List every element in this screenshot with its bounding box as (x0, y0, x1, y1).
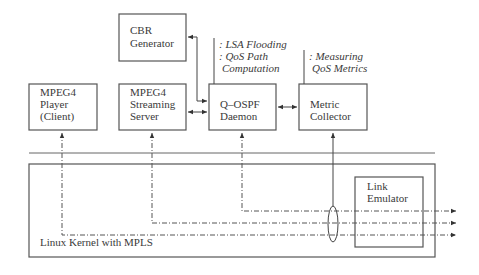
player-traffic-path (62, 133, 456, 235)
daemon-traffic-path (242, 133, 456, 211)
link-emulator-label-2: Emulator (367, 192, 408, 204)
daemon-annotation-1: : LSA Flooding (219, 38, 287, 50)
link-emulator-box (355, 177, 423, 247)
streaming-server-label-2: Streaming (130, 98, 176, 110)
collector-annotation-1: : Measuring (309, 50, 364, 62)
collector-annotation-2: QoS Metrics (312, 62, 367, 74)
traffic-bundle-ellipse (328, 206, 338, 242)
metric-collector-label-2: Collector (310, 110, 351, 122)
mpeg4-player-label-3: (Client) (40, 110, 75, 123)
daemon-annotation-2: : QoS Path (219, 50, 268, 62)
cbr-generator-label-2: Generator (130, 37, 174, 49)
qospf-daemon-label-2: Daemon (220, 110, 258, 122)
cbr-daemon-edge (188, 37, 207, 101)
streaming-server-label-1: MPEG4 (130, 86, 167, 98)
link-emulator-label-1: Link (367, 180, 388, 192)
streaming-server-label-3: Server (130, 110, 159, 122)
architecture-diagram: CBR Generator MPEG4 Player (Client) MPEG… (0, 0, 479, 275)
cbr-generator-label-1: CBR (130, 24, 153, 36)
linux-kernel-label: Linux Kernel with MPLS (40, 236, 153, 248)
metric-collector-label-1: Metric (310, 98, 339, 110)
server-traffic-path (152, 133, 456, 223)
mpeg4-player-label-2: Player (40, 98, 68, 110)
daemon-annotation-3: Computation (222, 62, 280, 74)
mpeg4-player-label-1: MPEG4 (40, 86, 77, 98)
qospf-daemon-label-1: Q–OSPF (220, 98, 260, 110)
